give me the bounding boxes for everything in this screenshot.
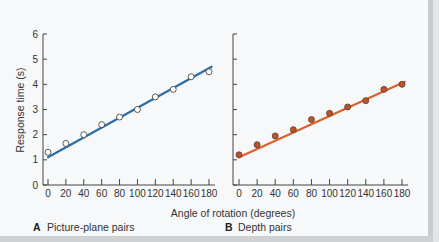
x-tick-label: 180 xyxy=(394,188,411,199)
data-point-marker xyxy=(152,94,158,100)
data-point-marker xyxy=(290,127,296,133)
data-point-marker xyxy=(399,81,405,87)
y-tick-label: 4 xyxy=(32,79,38,90)
data-point-marker xyxy=(254,142,260,148)
x-tick-label: 120 xyxy=(339,188,356,199)
x-tick-label: 160 xyxy=(183,188,200,199)
panel-b-caption: Depth pairs xyxy=(238,221,292,233)
x-tick-label: 80 xyxy=(114,188,126,199)
x-tick-label: 100 xyxy=(321,188,338,199)
x-tick-label: 40 xyxy=(270,188,282,199)
x-tick-label: 120 xyxy=(147,188,164,199)
data-point-marker xyxy=(45,149,51,155)
data-point-marker xyxy=(308,117,314,123)
data-point-marker xyxy=(134,107,140,113)
x-tick-label: 20 xyxy=(60,188,72,199)
data-point-marker xyxy=(81,132,87,138)
regression-line xyxy=(239,82,405,158)
panel-b-plot: 020406080100120140160180 xyxy=(233,34,411,199)
x-tick-label: 100 xyxy=(129,188,146,199)
data-point-marker xyxy=(206,69,212,75)
panel-a-letter: A xyxy=(33,221,41,233)
response-time-chart: 0123456020406080100120140160180 02040608… xyxy=(0,0,439,242)
x-axis-title: Angle of rotation (degrees) xyxy=(171,207,295,219)
data-point-marker xyxy=(381,86,387,92)
x-tick-label: 40 xyxy=(78,188,90,199)
data-point-marker xyxy=(63,140,69,146)
data-point-marker xyxy=(99,122,105,128)
y-tick-label: 6 xyxy=(32,29,38,40)
data-point-marker xyxy=(327,110,333,116)
panel-a-caption: Picture-plane pairs xyxy=(47,221,135,233)
x-tick-label: 180 xyxy=(201,188,218,199)
x-tick-label: 140 xyxy=(165,188,182,199)
y-tick-label: 0 xyxy=(32,180,38,191)
x-tick-label: 140 xyxy=(357,188,374,199)
y-tick-label: 3 xyxy=(32,104,38,115)
data-point-marker xyxy=(188,74,194,80)
y-tick-label: 2 xyxy=(32,129,38,140)
panel-b-letter: B xyxy=(225,221,233,233)
panel-a-plot: 0123456020406080100120140160180 xyxy=(32,29,217,200)
data-point-marker xyxy=(236,152,242,158)
data-point-marker xyxy=(272,133,278,139)
x-tick-label: 80 xyxy=(306,188,318,199)
data-point-marker xyxy=(117,114,123,120)
y-axis-title: Response time (s) xyxy=(14,67,26,152)
x-tick-label: 0 xyxy=(236,188,242,199)
x-tick-label: 60 xyxy=(96,188,108,199)
x-tick-label: 160 xyxy=(376,188,393,199)
x-tick-label: 60 xyxy=(288,188,300,199)
x-tick-label: 0 xyxy=(45,188,51,199)
data-point-marker xyxy=(170,86,176,92)
data-point-marker xyxy=(363,98,369,104)
regression-line xyxy=(48,67,212,158)
data-point-marker xyxy=(345,104,351,110)
x-tick-label: 20 xyxy=(252,188,264,199)
y-tick-label: 1 xyxy=(32,154,38,165)
y-tick-label: 5 xyxy=(32,54,38,65)
